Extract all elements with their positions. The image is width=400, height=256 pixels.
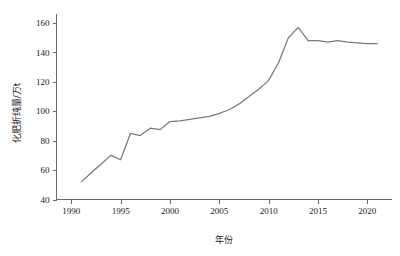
x-tick-label: 2020 [358,206,377,216]
y-tick-label: 140 [36,48,50,58]
y-axis-title: 化肥折纯量/万t [11,82,22,143]
x-tick-label: 2010 [260,206,279,216]
x-axis-title: 年份 [215,234,233,245]
y-axis-ticks: 406080100120140160 [36,18,57,205]
x-tick-label: 2015 [309,206,328,216]
y-tick-label: 120 [36,77,50,87]
y-tick-label: 100 [36,106,50,116]
line-chart-figure: 406080100120140160 199019952000200520102… [0,0,400,256]
y-tick-label: 40 [41,195,51,205]
x-tick-label: 2005 [210,206,229,216]
y-tick-label: 160 [36,18,50,28]
y-tick-label: 60 [41,165,51,175]
chart-canvas: 406080100120140160 199019952000200520102… [0,0,400,256]
x-tick-label: 2000 [161,206,180,216]
x-axis-ticks: 1990199520002005201020152020 [62,200,377,216]
x-tick-label: 1995 [112,206,131,216]
x-tick-label: 1990 [62,206,81,216]
data-line-series-0 [81,27,377,181]
y-tick-label: 80 [41,136,51,146]
